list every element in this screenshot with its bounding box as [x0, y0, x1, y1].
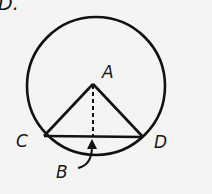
geometry-diagram: A C D B: [0, 0, 212, 194]
arrow-b: [78, 146, 92, 168]
point-label-a: A: [101, 62, 114, 82]
arrowhead-icon: [87, 139, 97, 149]
point-label-b: B: [56, 162, 68, 182]
segment-ac: [44, 84, 93, 136]
point-label-c: C: [16, 131, 28, 151]
point-label-d: D: [154, 132, 167, 152]
segment-ad: [93, 84, 143, 137]
segment-cd: [44, 136, 143, 137]
